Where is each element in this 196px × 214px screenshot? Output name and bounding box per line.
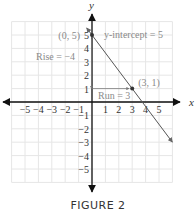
figure-caption: FIGURE 2 <box>0 199 196 212</box>
y-tick-label: 3 <box>84 57 89 68</box>
y-tick-label: −2 <box>78 124 89 135</box>
data-point <box>130 87 134 91</box>
y-tick-label: 1 <box>84 84 89 95</box>
x-tick-label: −4 <box>33 104 44 115</box>
y-tick-label: 5 <box>84 30 89 41</box>
y-tick-label: −5 <box>78 164 89 175</box>
coordinate-plane: xy −5−4−3−2−112345−5−4−3−2−112345 (0, 5)… <box>0 0 196 196</box>
point-label: (3, 1) <box>138 77 160 89</box>
x-axis-label: x <box>188 96 194 108</box>
point-label: (0, 5) <box>58 30 80 42</box>
x-tick-label: 1 <box>103 104 108 115</box>
y-tick-label: −3 <box>78 137 89 148</box>
y-intercept-annotation: y-intercept = 5 <box>104 29 163 40</box>
x-tick-label: −3 <box>46 104 57 115</box>
y-axis-label: y <box>88 0 94 11</box>
rise-annotation: Rise = −4 <box>36 51 75 62</box>
x-tick-label: −5 <box>20 104 31 115</box>
x-tick-label: 2 <box>116 104 121 115</box>
x-tick-label: 3 <box>130 104 135 115</box>
y-tick-label: −1 <box>78 110 89 121</box>
data-point <box>90 33 94 37</box>
y-tick-label: 2 <box>84 70 89 81</box>
annotations: y-intercept = 5Rise = −4Run = 3 <box>36 29 163 101</box>
run-annotation: Run = 3 <box>98 90 130 101</box>
y-tick-label: −4 <box>78 151 89 162</box>
slope-triangle <box>92 39 130 89</box>
y-tick-label: 4 <box>84 43 89 54</box>
x-tick-label: 5 <box>157 104 162 115</box>
x-tick-label: −2 <box>60 104 71 115</box>
coordinate-graph-figure: xy −5−4−3−2−112345−5−4−3−2−112345 (0, 5)… <box>0 0 196 214</box>
